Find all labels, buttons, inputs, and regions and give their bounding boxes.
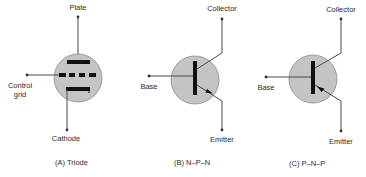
control-grid-label-line1: Control	[8, 81, 33, 90]
cathode-terminal-dot	[66, 129, 69, 132]
grid-segment	[79, 73, 85, 77]
base-bar	[193, 61, 197, 95]
emitter-label: Emitter	[210, 135, 234, 144]
emitter-terminal-dot	[340, 130, 343, 133]
base-label: Base	[257, 83, 274, 92]
base-bar	[311, 61, 315, 94]
pnp-panel: Collector Base Emitter (C) P–N–P	[257, 5, 356, 168]
pnp-caption: (C) P–N–P	[289, 159, 325, 168]
base-terminal-dot	[148, 75, 151, 78]
collector-label: Collector	[326, 5, 356, 14]
triode-panel: Plate Control grid Cathode (A) Triode	[8, 3, 102, 167]
plate-terminal-dot	[77, 16, 80, 19]
npn-caption: (B) N–P–N	[174, 158, 210, 167]
triode-caption: (A) Triode	[55, 158, 88, 167]
collector-terminal-dot	[340, 18, 343, 21]
control-grid-terminal-dot	[26, 74, 29, 77]
grid-segment	[59, 73, 66, 77]
grid-segment	[69, 73, 75, 77]
component-symbols-diagram: Plate Control grid Cathode (A) Triode Co…	[0, 0, 366, 177]
control-grid-label-line2: grid	[14, 90, 27, 99]
emitter-terminal-dot	[221, 129, 224, 132]
collector-terminal-dot	[221, 18, 224, 21]
npn-panel: Collector Base Emitter (B) N–P–N	[140, 4, 237, 167]
base-terminal-dot	[265, 76, 268, 79]
base-label: Base	[140, 82, 157, 91]
emitter-label: Emitter	[329, 137, 353, 146]
collector-label: Collector	[207, 4, 237, 13]
grid-segment	[89, 73, 96, 77]
plate-label: Plate	[69, 3, 86, 12]
cathode-element	[66, 87, 90, 91]
plate-element	[67, 60, 90, 64]
cathode-label: Cathode	[52, 134, 80, 143]
